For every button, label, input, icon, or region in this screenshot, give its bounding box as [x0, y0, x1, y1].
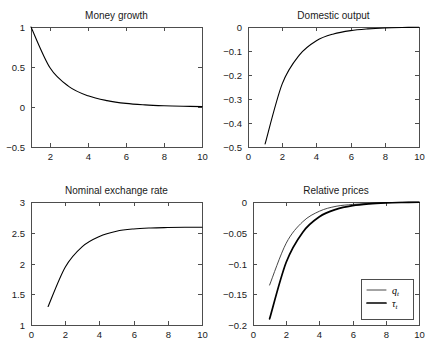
x-tick-label: 2 — [63, 329, 68, 340]
x-tick-label: 10 — [197, 329, 208, 340]
y-tick-label: 2.5 — [12, 228, 25, 239]
panel-domestic-output: Domestic output0246810−0.5−0.4−0.3−0.2−0… — [215, 0, 431, 178]
y-tick-label: 0 — [237, 22, 242, 33]
x-tick-label: 4 — [86, 151, 91, 162]
x-tick-label: 8 — [162, 151, 167, 162]
x-tick-label: 2 — [284, 329, 289, 340]
x-tick-label: 8 — [383, 151, 388, 162]
y-tick-label: 2 — [20, 259, 25, 270]
plot-frame — [32, 28, 203, 148]
panel-relative-prices: Relative prices0246810−0.2−0.15−0.1−0.05… — [215, 178, 431, 356]
series-line — [270, 202, 419, 285]
x-tick-label: 6 — [351, 329, 356, 340]
y-tick-label: −0.5 — [223, 142, 242, 153]
series-line — [265, 27, 419, 144]
y-tick-label: −0.2 — [223, 70, 242, 81]
y-tick-label: 3 — [20, 197, 25, 208]
y-tick-label: 1.5 — [12, 289, 25, 300]
series-line — [31, 27, 202, 107]
y-tick-label: −0.15 — [223, 289, 247, 300]
panel-title: Relative prices — [303, 185, 369, 196]
x-tick-label: 10 — [414, 329, 425, 340]
panel-title: Nominal exchange rate — [65, 185, 168, 196]
y-tick-label: −0.2 — [228, 320, 247, 331]
x-tick-label: 4 — [317, 329, 322, 340]
panel-money-growth: Money growth246810−0.500.51 — [0, 0, 215, 178]
y-tick-label: 0 — [20, 102, 25, 113]
x-tick-label: 6 — [132, 329, 137, 340]
plot-frame — [249, 28, 420, 148]
x-tick-label: 6 — [124, 151, 129, 162]
legend-box — [362, 280, 414, 320]
x-tick-label: 4 — [97, 329, 102, 340]
x-tick-label: 0 — [29, 329, 34, 340]
plot-frame — [32, 203, 203, 326]
panel-title: Domestic output — [297, 10, 369, 21]
y-tick-label: −0.5 — [6, 142, 25, 153]
y-tick-label: 1 — [20, 320, 25, 331]
figure-canvas: Money growth246810−0.500.51 Domestic out… — [0, 0, 431, 356]
x-tick-label: 8 — [166, 329, 171, 340]
panel-nominal-exchange-rate: Nominal exchange rate024681011.522.53 — [0, 178, 215, 356]
x-tick-label: 2 — [280, 151, 285, 162]
x-tick-label: 0 — [246, 151, 251, 162]
y-tick-label: −0.05 — [223, 228, 247, 239]
y-tick-label: 0 — [242, 197, 247, 208]
x-tick-label: 6 — [349, 151, 354, 162]
y-tick-label: −0.3 — [223, 94, 242, 105]
x-tick-label: 2 — [48, 151, 53, 162]
y-tick-label: 0.5 — [12, 62, 25, 73]
x-tick-label: 8 — [384, 329, 389, 340]
series-line — [48, 227, 202, 306]
x-tick-label: 0 — [251, 329, 256, 340]
y-tick-label: −0.1 — [223, 46, 242, 57]
y-tick-label: −0.1 — [228, 259, 247, 270]
x-tick-label: 10 — [414, 151, 425, 162]
x-tick-label: 4 — [314, 151, 319, 162]
x-tick-label: 10 — [197, 151, 208, 162]
y-tick-label: −0.4 — [223, 118, 242, 129]
panel-title: Money growth — [85, 10, 148, 21]
y-tick-label: 1 — [20, 22, 25, 33]
